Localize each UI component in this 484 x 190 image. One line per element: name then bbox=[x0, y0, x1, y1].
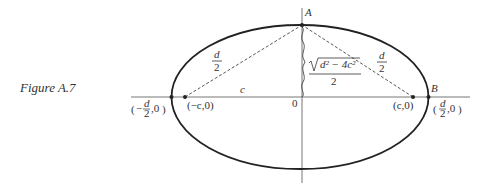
right-focus-label: (c,0) bbox=[393, 99, 414, 112]
point-a-dot bbox=[300, 23, 304, 27]
left-half-d-fraction: d 2 bbox=[212, 48, 222, 73]
c-distance-label: c bbox=[240, 83, 245, 95]
ellipse-figure: Figure A.7 A B 0 c (−c,0) (c,0) d 2 d 2 … bbox=[0, 0, 484, 190]
right-vertex-label: ( d 2 ,0 ) bbox=[433, 97, 462, 119]
origin-label: 0 bbox=[292, 97, 298, 109]
left-focus-label: (−c,0) bbox=[187, 99, 214, 112]
svg-text:2: 2 bbox=[331, 75, 337, 87]
svg-text:): ) bbox=[458, 103, 462, 116]
svg-text:2: 2 bbox=[379, 62, 385, 74]
svg-text:,0: ,0 bbox=[151, 102, 160, 114]
point-a-label: A bbox=[304, 6, 312, 18]
svg-text:,0: ,0 bbox=[447, 102, 456, 114]
right-focal-segment bbox=[302, 25, 413, 97]
svg-text:d: d bbox=[214, 48, 220, 60]
svg-text:d² − 4c²: d² − 4c² bbox=[320, 58, 356, 70]
svg-text:2: 2 bbox=[440, 107, 446, 119]
right-half-d-fraction: d 2 bbox=[377, 49, 387, 74]
left-vertex-dot bbox=[170, 95, 174, 99]
svg-text:2: 2 bbox=[214, 61, 220, 73]
svg-text:): ) bbox=[162, 103, 166, 116]
svg-text:d: d bbox=[379, 49, 385, 61]
svg-text:(: ( bbox=[433, 103, 437, 116]
svg-text:(: ( bbox=[131, 103, 135, 116]
semi-minor-fraction: d² − 4c² 2 bbox=[309, 58, 361, 87]
svg-text:−: − bbox=[136, 102, 142, 114]
svg-text:2: 2 bbox=[144, 107, 150, 119]
figure-caption: Figure A.7 bbox=[19, 80, 76, 95]
right-vertex-dot bbox=[427, 95, 431, 99]
point-b-label: B bbox=[431, 82, 438, 94]
left-vertex-label: ( − d 2 ,0 ) bbox=[131, 97, 166, 119]
